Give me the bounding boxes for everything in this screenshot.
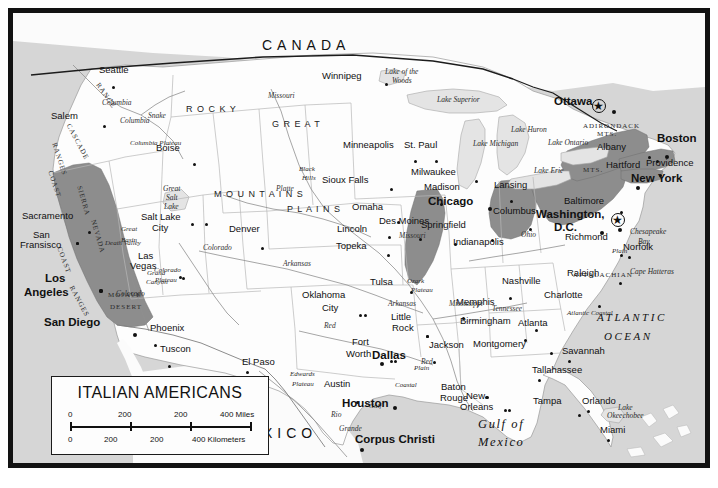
city-dot bbox=[103, 125, 106, 128]
city-label-chicago: Chicago bbox=[428, 196, 473, 208]
water-label: Lake Michigan bbox=[473, 140, 518, 148]
city-label-raleigh: Raleigh bbox=[567, 268, 599, 278]
water-label: Great bbox=[163, 185, 180, 193]
water-label: Lake Erie bbox=[534, 167, 563, 175]
map-legend: ITALIAN AMERICANS 0 200 200 400 Miles 0 … bbox=[51, 376, 269, 455]
city-label-memphis: Memphis bbox=[456, 297, 495, 307]
city-label-boston: Boston bbox=[657, 133, 697, 145]
city-dot bbox=[508, 409, 511, 412]
river-label: Arkansas bbox=[388, 300, 416, 308]
city-dot bbox=[182, 277, 185, 280]
city-label-baltimore: Baltimore bbox=[564, 196, 604, 206]
city-label-austin: Austin bbox=[324, 379, 350, 389]
city-dot bbox=[636, 186, 640, 190]
city-label-worth: Worth bbox=[346, 349, 371, 359]
water-label: Lake bbox=[164, 203, 179, 211]
city-dot bbox=[510, 200, 513, 203]
city-dot bbox=[607, 439, 610, 442]
physiographic-label: MOJAVE bbox=[108, 292, 142, 299]
city-dot bbox=[433, 361, 436, 364]
city-label-sacramento: Sacramento bbox=[22, 211, 73, 221]
city-label-rock: Rock bbox=[392, 323, 414, 333]
city-label-houston: Houston bbox=[342, 398, 389, 410]
city-dot bbox=[598, 305, 601, 308]
legend-title: ITALIAN AMERICANS bbox=[52, 384, 268, 402]
city-label-baton: Baton bbox=[441, 382, 466, 392]
city-label-sioux-falls: Sioux Falls bbox=[322, 175, 368, 185]
map-frame: CANADAMEXICOATLANTICOCEANGulf ofMexicoLa… bbox=[8, 8, 710, 468]
physiographic-label: Great bbox=[121, 226, 137, 233]
capital-ring-icon bbox=[592, 99, 606, 113]
river-label: Columbia bbox=[120, 117, 150, 125]
city-dot bbox=[99, 289, 103, 293]
water-label: Salt bbox=[166, 194, 178, 202]
city-label-nashville: Nashville bbox=[502, 276, 541, 286]
city-label-new-york: New York bbox=[631, 173, 682, 185]
city-label-charlotte: Charlotte bbox=[544, 290, 583, 300]
city-label-omaha: Omaha bbox=[352, 202, 383, 212]
city-label-hartford: Hartford bbox=[606, 160, 640, 170]
city-dot bbox=[491, 239, 494, 242]
river-label: Rio bbox=[331, 411, 341, 419]
city-label-springfield: Springfield bbox=[421, 220, 466, 230]
physiographic-label: Plateau bbox=[155, 277, 177, 284]
city-label-miami: Miami bbox=[600, 425, 625, 435]
ocean-label: Gulf of bbox=[478, 418, 524, 431]
water-label: Okeechobee bbox=[607, 412, 644, 420]
city-dot bbox=[578, 414, 581, 417]
city-dot bbox=[535, 329, 538, 332]
city-label-washington: Washington, bbox=[536, 209, 605, 221]
city-dot bbox=[587, 410, 590, 413]
city-dot bbox=[435, 160, 438, 163]
city-dot bbox=[509, 297, 512, 300]
city-label-fransisco: Fransisco bbox=[20, 240, 61, 250]
city-label-new: New bbox=[466, 391, 485, 401]
physiographic-label: DESERT bbox=[110, 304, 142, 311]
city-dot bbox=[246, 371, 249, 374]
city-dot bbox=[388, 236, 391, 239]
physiographic-label: MTS. bbox=[597, 131, 617, 138]
city-label-el-paso: El Paso bbox=[242, 357, 275, 367]
city-label-san-diego: San Diego bbox=[44, 317, 100, 329]
river-label: Missouri bbox=[268, 92, 295, 100]
city-label-seattle: Seattle bbox=[99, 65, 129, 75]
city-dot bbox=[419, 238, 422, 241]
city-label-orleans: Orleans bbox=[460, 402, 493, 412]
city-label-providence: Providence bbox=[646, 158, 694, 168]
city-label-st-paul: St. Paul bbox=[404, 140, 437, 150]
city-dot bbox=[191, 223, 194, 226]
city-label-lansing: Lansing bbox=[494, 180, 527, 190]
city-dot bbox=[359, 314, 362, 317]
city-dot bbox=[390, 188, 393, 191]
city-dot bbox=[550, 352, 553, 355]
city-dot bbox=[656, 160, 659, 163]
physiographic-label: Atlantic Coastal bbox=[567, 310, 613, 317]
city-label-topeka: Topeka bbox=[336, 241, 367, 251]
city-dot bbox=[618, 228, 622, 232]
physiographic-label: P L A I N S bbox=[287, 205, 341, 214]
city-dot bbox=[380, 362, 384, 366]
city-label-vegas: Vegas bbox=[130, 261, 156, 271]
river-label: Grande bbox=[339, 425, 362, 433]
physiographic-label: G R E A T bbox=[272, 120, 321, 129]
city-label-angeles: Angeles bbox=[24, 287, 69, 299]
city-dot bbox=[364, 314, 367, 317]
water-label: Lake Ontario bbox=[548, 139, 588, 147]
city-label-milwaukee: Milwaukee bbox=[411, 167, 456, 177]
city-dot bbox=[568, 360, 571, 363]
physiographic-label: Colorado bbox=[154, 267, 181, 274]
city-label-los: Los bbox=[45, 273, 65, 285]
river-label: Ohio bbox=[521, 231, 536, 239]
city-dot bbox=[414, 160, 417, 163]
city-dot bbox=[410, 291, 413, 294]
water-label: Lake Superior bbox=[437, 96, 480, 104]
scale-kilometers-labels: 0 200 200 400 Kilometers bbox=[64, 435, 260, 445]
city-label-winnipeg: Winnipeg bbox=[322, 71, 362, 81]
river-label: Colorado bbox=[203, 244, 232, 252]
city-label-phoenix: Phoenix bbox=[150, 323, 184, 333]
physiographic-label: MTS. bbox=[583, 167, 603, 174]
city-label-city: City bbox=[152, 223, 168, 233]
ocean-label: OCEAN bbox=[604, 331, 653, 342]
city-label-madison: Madison bbox=[424, 182, 460, 192]
city-dot bbox=[475, 180, 478, 183]
